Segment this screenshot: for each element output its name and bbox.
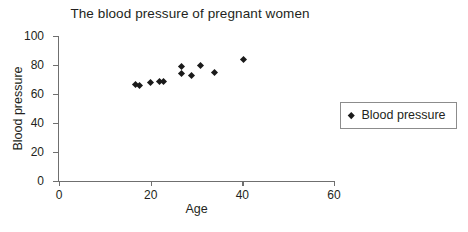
data-point <box>240 56 247 63</box>
diamond-marker-icon <box>348 112 354 118</box>
data-point <box>136 82 143 89</box>
x-tick-label: 40 <box>236 188 249 202</box>
data-point <box>178 70 185 77</box>
y-tick: 40 <box>53 123 58 124</box>
y-tick: 0 <box>53 181 58 182</box>
y-tick-label: 0 <box>37 174 44 188</box>
y-tick-label: 80 <box>31 58 44 72</box>
y-tick-label: 100 <box>24 29 44 43</box>
data-point <box>211 69 218 76</box>
y-tick-label: 40 <box>31 116 44 130</box>
plot-area: 020406080100 0204060 <box>59 36 334 181</box>
y-tick: 80 <box>53 65 58 66</box>
legend-entry-label: Blood pressure <box>362 108 446 122</box>
chart-title: The blood pressure of pregnant women <box>40 6 340 21</box>
data-point <box>147 79 154 86</box>
data-point <box>160 78 167 85</box>
x-tick-label: 60 <box>327 188 340 202</box>
x-axis-title: Age <box>59 202 334 216</box>
x-tick-label: 20 <box>144 188 157 202</box>
x-tick <box>151 181 152 186</box>
scatter-chart-figure: The blood pressure of pregnant women Blo… <box>0 0 468 232</box>
y-tick-label: 60 <box>31 87 44 101</box>
data-point <box>187 72 194 79</box>
data-point <box>197 61 204 68</box>
x-tick-label: 0 <box>56 188 63 202</box>
chart-legend: Blood pressure <box>340 102 457 129</box>
y-tick: 60 <box>53 94 58 95</box>
y-tick-label: 20 <box>31 145 44 159</box>
y-tick: 20 <box>53 152 58 153</box>
x-tick <box>242 181 243 186</box>
y-axis-title: Blood pressure <box>11 36 25 181</box>
x-axis-line <box>58 181 335 182</box>
y-axis-line <box>58 36 59 182</box>
x-tick <box>59 181 60 186</box>
y-tick: 100 <box>53 36 58 37</box>
data-point <box>178 62 185 69</box>
x-tick <box>334 181 335 186</box>
